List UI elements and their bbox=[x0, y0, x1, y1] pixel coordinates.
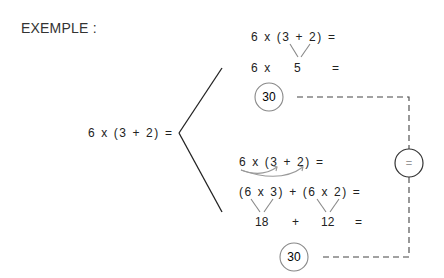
dashed-connector bbox=[297, 97, 409, 257]
top-result-value: 30 bbox=[262, 90, 276, 104]
bottom-combine-lines bbox=[251, 199, 339, 212]
bottom-result-circle: 30 bbox=[280, 243, 308, 271]
branch-lines bbox=[179, 68, 222, 212]
top-result-circle: 30 bbox=[255, 83, 283, 111]
diagram-graphics: 30 30 = bbox=[0, 0, 444, 278]
bottom-result-value: 30 bbox=[287, 250, 301, 264]
distribution-arrows bbox=[241, 166, 303, 176]
top-combine-lines bbox=[290, 44, 310, 57]
equals-icon: = bbox=[406, 157, 412, 169]
equality-circle: = bbox=[395, 149, 423, 177]
